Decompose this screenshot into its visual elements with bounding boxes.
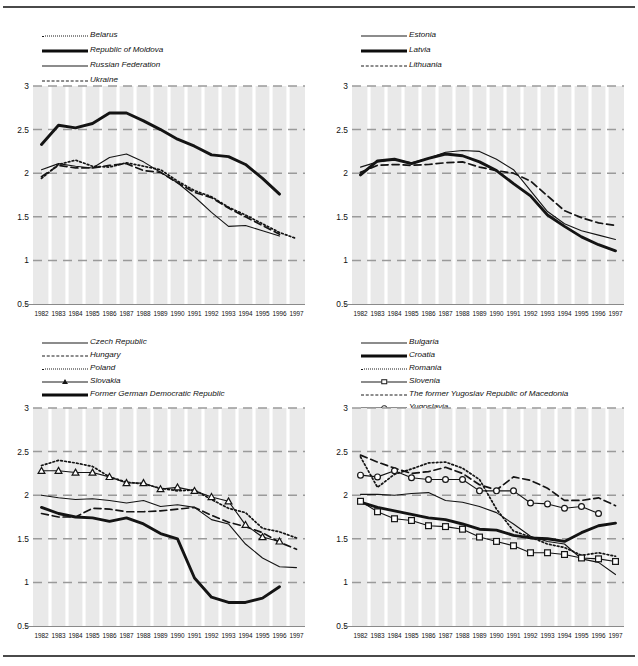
- x-axis-tick-label: 1993: [220, 632, 237, 639]
- panel-baltic-states: EstoniaLatviaLithuania32.521.510.5198219…: [319, 12, 638, 334]
- legend-item[interactable]: Estonia: [361, 28, 442, 43]
- x-axis-tick-label: 1992: [522, 632, 539, 639]
- x-axis-tick-label: 1985: [84, 632, 101, 639]
- legend-label: Slovenia: [409, 377, 440, 385]
- data-point-marker: [409, 475, 415, 481]
- legend-panel-south-eastern-europe: BulgariaCroatiaRomaniaSloveniaThe former…: [361, 336, 568, 414]
- y-axis-tick-label: 2: [24, 168, 29, 178]
- vertical-gridlines: [50, 86, 288, 304]
- legend-line-swatch: [361, 389, 407, 400]
- x-axis-tick-label: 1997: [288, 632, 305, 639]
- y-axis-tick-label: 1: [343, 577, 348, 587]
- x-axis-line: [25, 626, 305, 627]
- plot-area-panel-central-europe: [33, 408, 305, 626]
- x-axis-tick-label: 1983: [369, 310, 386, 317]
- legend-item[interactable]: The former Yugoslav Republic of Macedoni…: [361, 388, 568, 401]
- legend-label: Ukraine: [90, 76, 118, 84]
- x-axis-tick-label: 1986: [101, 632, 118, 639]
- legend-item[interactable]: Republic of Moldova: [42, 43, 163, 58]
- data-point-marker: [358, 498, 364, 504]
- legend-label: Bulgaria: [409, 338, 439, 346]
- data-point-marker: [562, 505, 568, 511]
- panel-central-europe: Czech RepublicHungaryPolandSlovakiaForme…: [0, 334, 319, 656]
- y-axis-tick-label: 2.5: [336, 447, 348, 457]
- chart-grid: BelarusRepublic of MoldovaRussian Federa…: [0, 12, 638, 657]
- x-axis-tick-label: 1985: [403, 310, 420, 317]
- x-axis-tick-label: 1996: [590, 632, 607, 639]
- legend-item[interactable]: Bulgaria: [361, 336, 568, 349]
- data-point-marker: [562, 552, 568, 558]
- legend-item[interactable]: Slovenia: [361, 375, 568, 388]
- y-axis-tick-label: 1.5: [336, 212, 348, 222]
- legend-line-swatch: [42, 30, 88, 41]
- y-axis-tick-label: 3: [343, 403, 348, 413]
- top-divider-rule: [3, 6, 635, 8]
- data-point-marker: [225, 498, 232, 504]
- square-marker-icon: [381, 379, 387, 385]
- data-point-marker: [613, 559, 619, 565]
- x-axis-tick-label: 1988: [135, 310, 152, 317]
- legend-item[interactable]: Hungary: [42, 349, 224, 362]
- x-axis-tick-label: 1992: [203, 632, 220, 639]
- x-axis-tick-label: 1996: [271, 632, 288, 639]
- x-axis-tick-label: 1994: [556, 632, 573, 639]
- x-axis-tick-label: 1983: [50, 632, 67, 639]
- data-point-marker: [72, 469, 79, 475]
- data-point-marker: [38, 467, 45, 473]
- x-axis-tick-label: 1992: [203, 310, 220, 317]
- plot-svg: [352, 86, 624, 304]
- data-point-marker: [528, 550, 534, 556]
- x-axis-tick-label: 1983: [50, 310, 67, 317]
- data-point-marker: [191, 487, 198, 493]
- vertical-gridlines: [369, 86, 607, 304]
- x-axis-tick-label: 1995: [573, 310, 590, 317]
- y-axis-tick-label: 3: [24, 81, 29, 91]
- legend-item[interactable]: Romania: [361, 362, 568, 375]
- legend-item[interactable]: Czech Republic: [42, 336, 224, 349]
- legend-label: Hungary: [90, 351, 121, 359]
- x-axis-labels: 1982198319841985198619871988198919901991…: [33, 310, 305, 317]
- legend-panel-baltic-states: EstoniaLatviaLithuania: [361, 28, 442, 73]
- data-point-marker: [426, 523, 432, 529]
- x-axis-line: [25, 304, 305, 305]
- legend-item[interactable]: Slovakia: [42, 375, 224, 388]
- x-axis-tick-label: 1985: [84, 310, 101, 317]
- plot-area-panel-south-eastern-europe: [352, 408, 624, 626]
- legend-label: Lithuania: [409, 61, 442, 69]
- y-axis-tick-label: 1.5: [17, 534, 29, 544]
- legend-line-swatch: [361, 350, 407, 361]
- legend-line-swatch: [42, 75, 88, 86]
- x-axis-tick-label: 1991: [186, 310, 203, 317]
- data-point-marker: [392, 468, 398, 474]
- x-axis-tick-label: 1984: [67, 632, 84, 639]
- x-axis-tick-label: 1986: [420, 632, 437, 639]
- legend-item[interactable]: Poland: [42, 362, 224, 375]
- legend-label: Republic of Moldova: [90, 46, 163, 54]
- data-point-marker: [579, 504, 585, 510]
- legend-item[interactable]: Russian Federation: [42, 58, 163, 73]
- data-point-marker: [123, 480, 130, 486]
- y-axis-tick-label: 3: [343, 81, 348, 91]
- x-axis-tick-label: 1988: [454, 310, 471, 317]
- x-axis-tick-label: 1982: [352, 310, 369, 317]
- x-axis-tick-label: 1992: [522, 310, 539, 317]
- data-point-marker: [55, 467, 62, 473]
- legend-item[interactable]: Croatia: [361, 349, 568, 362]
- data-point-marker: [174, 484, 181, 490]
- legend-line-swatch: [42, 45, 88, 56]
- x-axis-tick-label: 1984: [386, 632, 403, 639]
- series-line: [42, 113, 280, 194]
- legend-line-swatch: [361, 30, 407, 41]
- legend-item[interactable]: Belarus: [42, 28, 163, 43]
- legend-item[interactable]: Former German Democratic Republic: [42, 388, 224, 401]
- legend-label: Russian Federation: [90, 61, 160, 69]
- legend-line-swatch: [42, 389, 88, 400]
- data-point-marker: [208, 494, 215, 500]
- legend-label: Czech Republic: [90, 338, 147, 346]
- x-axis-tick-label: 1997: [607, 310, 624, 317]
- x-axis-tick-label: 1984: [386, 310, 403, 317]
- legend-item[interactable]: Latvia: [361, 43, 442, 58]
- series-line: [42, 154, 280, 236]
- legend-item[interactable]: Lithuania: [361, 58, 442, 73]
- y-axis-tick-label: 2: [24, 490, 29, 500]
